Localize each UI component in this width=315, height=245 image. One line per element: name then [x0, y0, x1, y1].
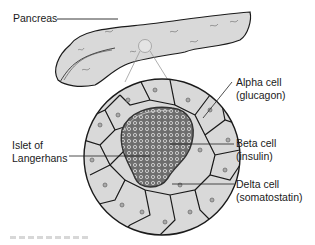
caption-remnant — [10, 236, 90, 239]
alpha-cell-name: Alpha cell — [236, 76, 286, 89]
alpha-cell-hormone: (glucagon) — [236, 89, 286, 102]
pancreas-label-text: Pancreas — [13, 12, 57, 24]
beta-cell-hormone: (insulin) — [236, 150, 276, 163]
alpha-cell-label: Alpha cell (glucagon) — [236, 76, 286, 102]
islet-label-line1: Islet of — [12, 139, 67, 152]
islet-cross-section — [84, 79, 240, 235]
delta-cell-hormone: (somatostatin) — [236, 191, 303, 204]
islet-label: Islet of Langerhans — [12, 139, 67, 165]
delta-cell-name: Delta cell — [236, 178, 303, 191]
delta-cell-label: Delta cell (somatostatin) — [236, 178, 303, 204]
beta-cell-name: Beta cell — [236, 137, 276, 150]
islet-label-line2: Langerhans — [12, 152, 67, 165]
pancreas-label: Pancreas — [13, 12, 57, 25]
pancreas-organ — [56, 12, 251, 86]
pancreas-islet-diagram — [0, 0, 315, 245]
beta-cell-label: Beta cell (insulin) — [236, 137, 276, 163]
islet-marker — [139, 40, 152, 53]
